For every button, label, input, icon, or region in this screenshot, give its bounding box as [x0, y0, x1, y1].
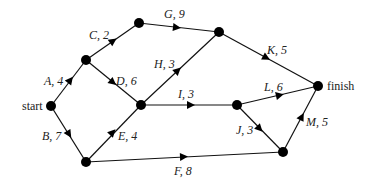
label-edge-C: C, 2: [89, 28, 109, 42]
label-edge-F: F, 8: [173, 164, 192, 178]
arrow-I-icon: [187, 101, 195, 109]
node-n7: [278, 147, 288, 157]
label-finish: finish: [327, 79, 354, 93]
arrow-G-icon: [173, 23, 182, 32]
arrow-E-icon: [107, 126, 118, 137]
node-n2: [134, 18, 144, 28]
label-edge-B: B, 7: [42, 129, 62, 143]
arrow-B-icon: [64, 129, 75, 140]
label-edge-J: J, 3: [236, 123, 253, 137]
label-edge-D: D, 6: [115, 74, 137, 88]
node-start: [46, 101, 56, 111]
label-edge-A: A, 4: [43, 74, 63, 88]
label-start: start: [22, 99, 43, 113]
label-edge-M: M, 5: [305, 115, 328, 129]
activity-network-diagram: start finish A, 4 B, 7 C, 2 D, 6 E, 4 F,…: [0, 0, 373, 186]
label-edge-I: I, 3: [177, 87, 194, 101]
arrow-F-icon: [180, 153, 188, 161]
label-edge-L: L, 6: [263, 80, 283, 94]
node-n4: [214, 27, 224, 37]
node-n1: [81, 55, 91, 65]
label-edge-K: K, 5: [266, 43, 287, 57]
label-edge-E: E, 4: [117, 129, 137, 143]
node-finish: [313, 81, 323, 91]
node-n3: [136, 100, 146, 110]
label-edge-H: H, 3: [153, 57, 175, 71]
label-edge-G: G, 9: [164, 7, 185, 21]
arrow-C-icon: [108, 35, 119, 46]
node-n5: [232, 100, 242, 110]
node-n6: [81, 157, 91, 167]
